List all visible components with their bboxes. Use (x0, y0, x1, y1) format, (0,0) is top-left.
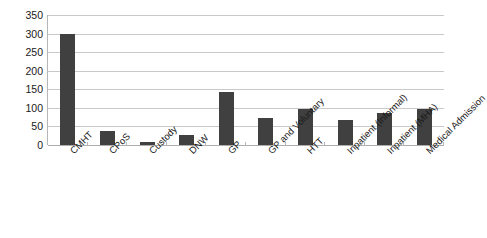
x-axis-tick-mark (245, 142, 246, 146)
y-axis-tick-label: 350 (3, 10, 43, 20)
y-axis: 050100150200250300350 (0, 15, 43, 145)
y-axis-tick-label: 100 (3, 103, 43, 113)
y-axis-tick-label: 50 (3, 121, 43, 131)
y-axis-tick-label: 250 (3, 47, 43, 57)
y-axis-tick-label: 0 (3, 140, 43, 150)
x-axis: CMHTCPoSCustodyDNWGPGP and VoluntaryHTTI… (47, 146, 443, 238)
y-axis-tick-label: 200 (3, 66, 43, 76)
bars-group (48, 15, 444, 145)
bar (219, 92, 234, 145)
plot-area (47, 15, 444, 145)
y-axis-tick-label: 300 (3, 29, 43, 39)
bar (60, 34, 75, 145)
y-axis-tick-label: 150 (3, 84, 43, 94)
